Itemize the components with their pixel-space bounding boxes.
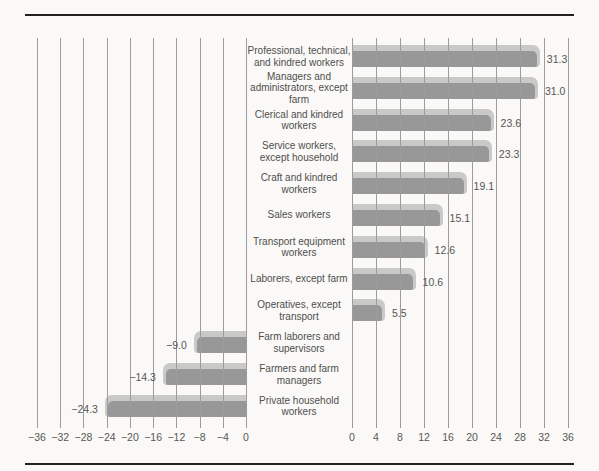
- axis-tick-label-left: 0: [229, 431, 263, 443]
- category-label: Professional, technical, and kindred wor…: [246, 45, 352, 68]
- gridline-right: [568, 38, 569, 428]
- bar: [352, 77, 538, 99]
- gridline-right: [352, 38, 353, 428]
- value-label: 19.1: [474, 180, 494, 192]
- gridline-right: [400, 38, 401, 428]
- bar: [352, 236, 428, 258]
- bar-front-face: [352, 305, 382, 321]
- axis-tick-label-right: 36: [551, 431, 585, 443]
- diverging-bar-chart: −36−32−28−24−20−16−12−8−4004812162024283…: [0, 0, 599, 471]
- category-label: Laborers, except farm: [246, 273, 352, 285]
- category-label: Private household workers: [246, 394, 352, 417]
- category-label: Sales workers: [246, 209, 352, 221]
- category-label: Farm laborers and supervisors: [246, 331, 352, 354]
- value-label: 23.6: [501, 117, 521, 129]
- value-label: 31.3: [547, 53, 567, 65]
- value-label: 15.1: [450, 212, 470, 224]
- gridline-left: [37, 38, 38, 428]
- value-label: 5.5: [392, 307, 407, 319]
- bar: [194, 331, 246, 353]
- bar-front-face: [166, 369, 246, 385]
- category-label: Farmers and farm managers: [246, 363, 352, 386]
- category-label: Craft and kindred workers: [246, 172, 352, 195]
- value-label: 10.6: [423, 276, 443, 288]
- gridline-right: [376, 38, 377, 428]
- gridline-left: [153, 38, 154, 428]
- bar: [352, 268, 416, 290]
- scanned-chart-figure: −36−32−28−24−20−16−12−8−4004812162024283…: [0, 0, 599, 471]
- bar: [352, 299, 385, 321]
- gridline-right: [520, 38, 521, 428]
- bar-front-face: [352, 242, 425, 258]
- bar: [352, 172, 467, 194]
- value-label: 23.3: [499, 148, 519, 160]
- bar-front-face: [352, 115, 491, 131]
- value-label: −14.3: [86, 371, 156, 383]
- gridline-left: [176, 38, 177, 428]
- value-label: 12.6: [435, 244, 455, 256]
- bottom-rule: [25, 463, 574, 465]
- gridline-right: [496, 38, 497, 428]
- gridline-right: [472, 38, 473, 428]
- gridline-right: [448, 38, 449, 428]
- category-label: Managers and administrators, except farm: [246, 71, 352, 106]
- bar-front-face: [352, 178, 464, 194]
- gridline-left: [200, 38, 201, 428]
- bar-front-face: [352, 51, 537, 67]
- gridline-left: [223, 38, 224, 428]
- bar-front-face: [197, 337, 246, 353]
- value-label: −9.0: [117, 339, 187, 351]
- category-label: Clerical and kindred workers: [246, 108, 352, 131]
- category-label: Transport equipment workers: [246, 235, 352, 258]
- gridline-left: [107, 38, 108, 428]
- gridline-right: [424, 38, 425, 428]
- gridline-left: [83, 38, 84, 428]
- gridline-left: [130, 38, 131, 428]
- gridline-left: [60, 38, 61, 428]
- bar-front-face: [352, 146, 489, 162]
- bar: [352, 140, 492, 162]
- bar-front-face: [352, 83, 535, 99]
- bar-front-face: [352, 274, 413, 290]
- category-label: Operatives, except transport: [246, 299, 352, 322]
- value-label: −24.3: [28, 403, 98, 415]
- bar: [352, 45, 540, 67]
- value-label: 31.0: [545, 85, 565, 97]
- bar-front-face: [352, 210, 440, 226]
- category-label: Service workers, except household: [246, 140, 352, 163]
- bar: [352, 204, 443, 226]
